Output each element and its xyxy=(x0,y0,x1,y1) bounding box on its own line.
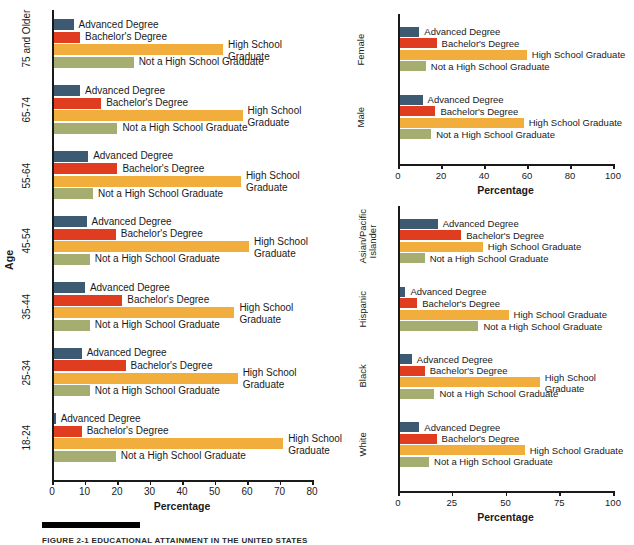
age-xtick xyxy=(182,480,184,485)
sex-xticklabel: 60 xyxy=(509,170,545,181)
bar-sex-0-bachelors xyxy=(400,38,437,48)
grouplabel-race-0: Asian/Pacific Islander xyxy=(358,219,371,264)
figure-caption: FIGURE 2-1 EDUCATIONAL ATTAINMENT IN THE… xyxy=(42,536,602,545)
sex-xticklabel: 80 xyxy=(552,170,588,181)
bar-age-5-nothighschool xyxy=(54,385,90,396)
bar-race-0-bachelors xyxy=(400,230,461,240)
bar-sex-0-advanced xyxy=(400,27,419,37)
barlabel-age-4-highschool: High School Graduate xyxy=(239,302,293,326)
barlabel-age-5-nothighschool: Not a High School Graduate xyxy=(95,385,220,397)
bar-age-1-bachelors xyxy=(54,98,101,109)
bar-sex-1-highschool xyxy=(400,118,524,128)
grouplabel-age-2: 55-64 xyxy=(22,151,36,200)
barlabel-race-3-highschool: High School Graduate xyxy=(530,445,623,457)
age-xtick xyxy=(150,480,152,485)
grouplabel-age-3: 45-54 xyxy=(22,216,36,265)
barlabel-age-2-highschool: High School Graduate xyxy=(246,170,300,194)
grouplabel-age-1: 65-74 xyxy=(22,85,36,134)
barlabel-race-0-advanced: Advanced Degree xyxy=(443,218,519,230)
grouplabel-age-5: 25-34 xyxy=(22,348,36,397)
barlabel-age-2-bachelors: Bachelor's Degree xyxy=(122,163,204,175)
barlabel-age-3-nothighschool: Not a High School Graduate xyxy=(95,253,220,265)
sex-xticklabel: 100 xyxy=(595,170,631,181)
age-xticklabel: 50 xyxy=(197,486,233,497)
barlabel-sex-0-nothighschool: Not a High School Graduate xyxy=(431,61,550,73)
barlabel-age-4-bachelors: Bachelor's Degree xyxy=(127,294,209,306)
bar-sex-0-nothighschool xyxy=(400,61,426,71)
bar-age-6-highschool xyxy=(54,438,283,449)
bar-race-1-advanced xyxy=(400,287,405,297)
age-xticklabel: 20 xyxy=(99,486,135,497)
bar-sex-1-advanced xyxy=(400,95,423,105)
barlabel-age-0-advanced: Advanced Degree xyxy=(79,19,159,31)
bar-age-2-highschool xyxy=(54,176,241,187)
age-xtick xyxy=(312,480,314,485)
bar-race-2-advanced xyxy=(400,354,412,364)
race-xtick xyxy=(398,491,400,496)
bar-race-1-nothighschool xyxy=(400,321,478,331)
race-xticklabel: 100 xyxy=(595,497,631,508)
grouplabel-race-1: Hispanic xyxy=(358,287,371,332)
barlabel-race-2-bachelors: Bachelor's Degree xyxy=(430,365,508,377)
grouplabel-sex-1: Male xyxy=(356,95,369,140)
bar-age-2-bachelors xyxy=(54,163,117,174)
bar-age-6-nothighschool xyxy=(54,451,116,462)
bar-age-3-bachelors xyxy=(54,229,116,240)
bar-age-4-highschool xyxy=(54,307,234,318)
race-xticklabel: 75 xyxy=(541,497,577,508)
bar-age-3-advanced xyxy=(54,216,87,227)
bar-sex-1-bachelors xyxy=(400,106,435,116)
chart-panel-sex: Sex (Age 25 and Older)020406080100Advanc… xyxy=(334,6,634,191)
age-xticklabel: 60 xyxy=(229,486,265,497)
sex-x-axis-title: Percentage xyxy=(398,184,613,196)
race-plot-area: 0255075100Advanced DegreeBachelor's Degr… xyxy=(398,206,613,491)
barlabel-race-3-bachelors: Bachelor's Degree xyxy=(442,433,520,445)
bar-age-0-advanced xyxy=(54,19,74,30)
age-xtick xyxy=(85,480,87,485)
age-xticklabel: 40 xyxy=(164,486,200,497)
grouplabel-age-0: 75 and Older xyxy=(22,19,36,68)
sex-plot-area: 020406080100Advanced DegreeBachelor's De… xyxy=(398,14,613,164)
bar-age-4-bachelors xyxy=(54,295,122,306)
barlabel-age-0-nothighschool: Not a High School Graduate xyxy=(139,56,264,68)
age-xticklabel: 80 xyxy=(294,486,330,497)
caption-rule xyxy=(42,522,140,528)
bar-race-2-bachelors xyxy=(400,366,425,376)
bar-race-3-nothighschool xyxy=(400,457,429,467)
barlabel-age-3-advanced: Advanced Degree xyxy=(92,216,172,228)
age-xticklabel: 30 xyxy=(132,486,168,497)
barlabel-sex-0-advanced: Advanced Degree xyxy=(424,26,500,38)
barlabel-race-0-bachelors: Bachelor's Degree xyxy=(466,230,544,242)
grouplabel-sex-0: Female xyxy=(356,27,369,72)
bar-race-2-nothighschool xyxy=(400,389,434,399)
bar-sex-0-highschool xyxy=(400,50,527,60)
barlabel-sex-1-highschool: High School Graduate xyxy=(529,117,622,129)
bar-age-0-bachelors xyxy=(54,32,80,43)
barlabel-race-2-nothighschool: Not a High School Graduate xyxy=(439,388,558,400)
chart-panel-age: Age01020304050607080Advanced DegreeBache… xyxy=(0,8,334,523)
age-xtick xyxy=(280,480,282,485)
barlabel-race-3-nothighschool: Not a High School Graduate xyxy=(434,456,553,468)
sex-xticklabel: 0 xyxy=(380,170,416,181)
barlabel-sex-0-highschool: High School Graduate xyxy=(532,49,625,61)
bar-race-0-highschool xyxy=(400,242,483,252)
bar-age-1-highschool xyxy=(54,110,243,121)
age-x-axis-title: Percentage xyxy=(52,500,312,512)
bar-age-4-nothighschool xyxy=(54,320,90,331)
race-xtick xyxy=(506,491,508,496)
grouplabel-age-4: 35-44 xyxy=(22,282,36,331)
bar-age-5-advanced xyxy=(54,348,82,359)
race-xtick xyxy=(559,491,561,496)
barlabel-race-0-highschool: High School Graduate xyxy=(488,241,581,253)
barlabel-age-3-bachelors: Bachelor's Degree xyxy=(121,228,203,240)
bar-age-5-bachelors xyxy=(54,360,126,371)
barlabel-age-1-nothighschool: Not a High School Graduate xyxy=(122,122,247,134)
age-xtick xyxy=(52,480,54,485)
sex-xticklabel: 40 xyxy=(466,170,502,181)
bar-race-0-advanced xyxy=(400,219,438,229)
race-xtick xyxy=(452,491,454,496)
barlabel-age-2-advanced: Advanced Degree xyxy=(93,150,173,162)
bar-age-3-highschool xyxy=(54,241,249,252)
sex-xticklabel: 20 xyxy=(423,170,459,181)
barlabel-race-1-nothighschool: Not a High School Graduate xyxy=(483,321,602,333)
